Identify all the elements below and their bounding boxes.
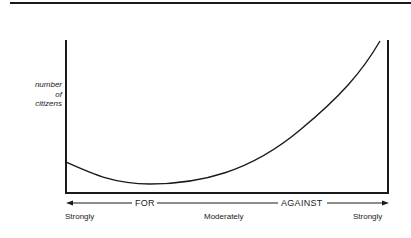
y-label-line-2: of — [35, 90, 62, 100]
strongly-for-label: Strongly — [65, 212, 94, 222]
distribution-curve — [66, 41, 380, 184]
y-axis-label: number of citizens — [35, 80, 62, 109]
y-label-line-1: number — [35, 80, 62, 90]
moderately-label: Moderately — [204, 212, 244, 222]
right-arrowhead-icon — [382, 201, 389, 206]
for-label: FOR — [134, 198, 156, 208]
y-label-line-3: citizens — [35, 99, 62, 109]
against-label: AGAINST — [280, 198, 324, 208]
chart-plot — [0, 0, 411, 238]
left-arrowhead-icon — [66, 201, 73, 206]
strongly-against-label: Strongly — [353, 212, 382, 222]
